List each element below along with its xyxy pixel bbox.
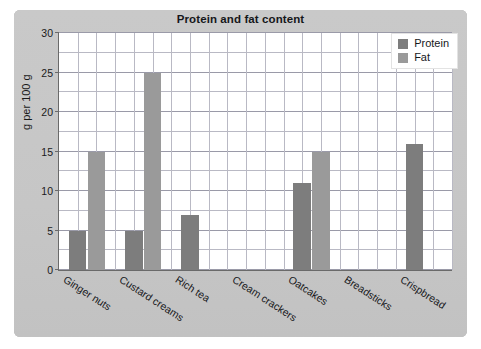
- gridline-horizontal: [59, 32, 452, 33]
- y-axis-tick-label: 30: [41, 27, 53, 39]
- legend-label-fat: Fat: [414, 52, 430, 63]
- gridline-vertical: [358, 33, 359, 270]
- y-axis-tick-mark: [55, 32, 59, 33]
- gridline-vertical: [246, 33, 247, 270]
- gridline-vertical: [433, 33, 434, 270]
- y-axis-label: g per 100 g: [20, 10, 32, 130]
- gridline-horizontal: [59, 131, 452, 132]
- legend-label-protein: Protein: [414, 38, 449, 49]
- bar-fat-4: [312, 152, 330, 271]
- y-axis-tick-label: 0: [47, 264, 53, 276]
- gridline-vertical: [171, 33, 172, 270]
- y-axis-tick-mark: [55, 230, 59, 231]
- gridline-horizontal: [59, 230, 452, 231]
- y-axis-tick-label: 5: [47, 225, 53, 237]
- bar-protein-0: [69, 231, 87, 271]
- x-axis-labels: Ginger nutsCustard creamsRich teaCream c…: [58, 273, 452, 349]
- x-axis-label-6: Crispbread: [398, 273, 448, 311]
- legend-item-fat: Fat: [398, 52, 449, 63]
- y-axis-tick-label: 10: [41, 185, 53, 197]
- gridline-horizontal: [59, 170, 452, 171]
- gridline-vertical: [340, 33, 341, 270]
- legend-swatch-fat-icon: [398, 53, 408, 63]
- gridline-vertical: [284, 33, 285, 270]
- bar-protein-2: [181, 215, 199, 270]
- gridline-horizontal: [59, 91, 452, 92]
- y-axis-tick-mark: [55, 269, 59, 270]
- gridline-vertical: [227, 33, 228, 270]
- gridline-horizontal: [59, 111, 452, 112]
- plot-canvas: 051015202530: [58, 33, 452, 271]
- gridline-vertical: [115, 33, 116, 270]
- x-axis-label-2: Rich tea: [174, 273, 213, 304]
- legend-swatch-protein-icon: [398, 39, 408, 49]
- gridline-horizontal: [59, 249, 452, 250]
- bar-fat-0: [88, 152, 106, 271]
- y-axis-tick-mark: [55, 111, 59, 112]
- gridline-vertical: [377, 33, 378, 270]
- gridline-horizontal: [59, 269, 452, 270]
- y-axis-tick-label: 25: [41, 67, 53, 79]
- x-axis-label-4: Oatcakes: [286, 273, 330, 307]
- x-axis-label-5: Breadsticks: [342, 273, 394, 313]
- y-axis-tick-mark: [55, 151, 59, 152]
- legend-item-protein: Protein: [398, 38, 449, 49]
- gridline-vertical: [265, 33, 266, 270]
- chart-screenshot: Protein and fat content g per 100 g 0510…: [0, 0, 481, 349]
- bar-protein-6: [406, 144, 424, 270]
- gridline-vertical: [452, 33, 453, 270]
- bar-fat-1: [144, 73, 162, 271]
- plot-area: 051015202530: [58, 33, 452, 271]
- y-axis-tick-label: 15: [41, 146, 53, 158]
- gridline-horizontal: [59, 190, 452, 191]
- chart-panel: Protein and fat content g per 100 g 0510…: [14, 10, 467, 337]
- gridline-vertical: [209, 33, 210, 270]
- gridline-horizontal: [59, 210, 452, 211]
- gridline-vertical: [396, 33, 397, 270]
- chart-legend: Protein Fat: [392, 34, 457, 68]
- gridline-horizontal: [59, 72, 452, 73]
- y-axis-tick-label: 20: [41, 106, 53, 118]
- y-axis-tick-mark: [55, 190, 59, 191]
- y-axis-tick-mark: [55, 72, 59, 73]
- bar-protein-4: [293, 183, 311, 270]
- bar-protein-1: [125, 231, 143, 271]
- x-axis-label-0: Ginger nuts: [62, 273, 114, 313]
- chart-title: Protein and fat content: [14, 13, 467, 25]
- gridline-horizontal: [59, 151, 452, 152]
